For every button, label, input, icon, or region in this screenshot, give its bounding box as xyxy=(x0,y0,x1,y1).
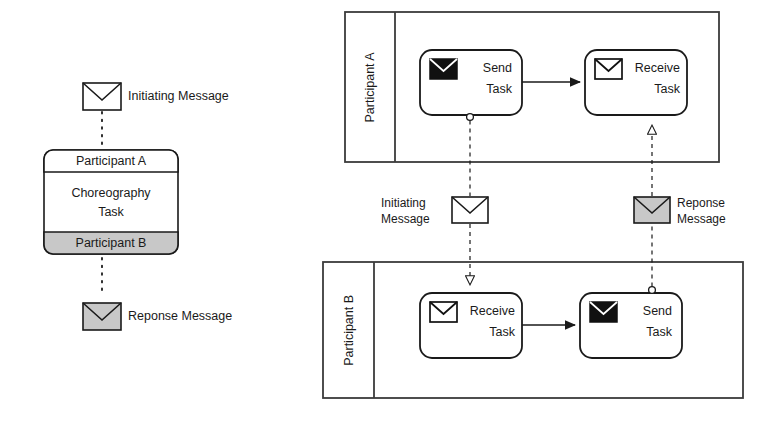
task-receive-a-label-line1: Receive xyxy=(620,61,680,76)
pool-label-participant-a: Participant A xyxy=(363,12,378,162)
message-flow-response-label-line1: Reponse xyxy=(677,196,747,210)
legend-response-message-label: Reponse Message xyxy=(128,309,232,324)
task-send-a-label-line1: Send xyxy=(452,61,512,76)
envelope-icon-receive-a xyxy=(595,59,622,79)
legend-initiating-message-label: Initiating Message xyxy=(128,89,229,104)
task-receive-b-label-line1: Receive xyxy=(455,304,515,319)
envelope-icon-receive-b xyxy=(430,302,457,322)
task-receive-b-label-line2: Task xyxy=(455,325,515,340)
envelope-icon-initiating-flow xyxy=(452,197,488,223)
task-send-b-label-line1: Send xyxy=(612,304,672,319)
choreography-task-name-line1: Choreography xyxy=(44,186,178,201)
task-receive-a-label-line2: Task xyxy=(620,82,680,97)
message-flow-initiating-label-line1: Initiating xyxy=(381,196,445,210)
choreography-participant-a-label: Participant A xyxy=(44,154,178,169)
envelope-icon-response-flow xyxy=(634,197,670,223)
message-flow-initiating-label-line2: Message xyxy=(381,212,445,226)
choreography-participant-b-label: Participant B xyxy=(44,236,178,251)
legend-initiating-envelope-icon xyxy=(83,83,121,110)
diagram-canvas: Initiating Message Reponse Message Parti… xyxy=(0,0,774,422)
message-flow-response-label-line2: Message xyxy=(677,212,747,226)
task-send-b-label-line2: Task xyxy=(612,325,672,340)
legend-response-envelope-icon xyxy=(83,303,121,330)
pool-label-participant-b: Participant B xyxy=(342,255,357,405)
task-send-a-label-line2: Task xyxy=(452,82,512,97)
choreography-task-name-line2: Task xyxy=(44,205,178,220)
